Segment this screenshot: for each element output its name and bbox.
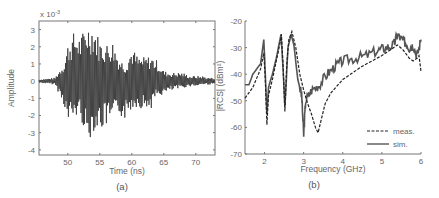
plot-a: 3210-1-2-3-4 5055606570 x 10-3 Time (ns)… [6, 9, 215, 192]
y-tick-label: 2 [31, 43, 36, 52]
x-tick-label: 5 [380, 157, 385, 166]
y-tick-label: -40 [230, 70, 242, 79]
y-tick-label: -50 [230, 97, 242, 106]
x-tick-label: 70 [191, 158, 200, 167]
x-tick-label: 65 [159, 158, 168, 167]
plot-a-signal-line [39, 33, 215, 137]
legend-meas-label: meas. [393, 127, 415, 136]
plot-a-caption: (a) [116, 181, 128, 192]
x-tick-label: 55 [95, 158, 104, 167]
plot-b-caption: (b) [308, 179, 320, 190]
plot-b-meas-line [245, 32, 421, 133]
legend-sim-label: sim. [393, 140, 408, 149]
y-tick-label: -20 [230, 17, 242, 26]
figure: 3210-1-2-3-4 5055606570 x 10-3 Time (ns)… [0, 0, 439, 198]
y-tick-label: -2 [28, 111, 36, 120]
x-tick-label: 6 [419, 157, 424, 166]
plot-a-x-label: Time (ns) [109, 166, 145, 176]
y-tick-label: -70 [230, 150, 242, 159]
plot-b-y-label: |RCS| (dBm²) [215, 60, 225, 111]
y-tick-label: -30 [230, 44, 242, 53]
plot-b-sim-line [245, 34, 421, 137]
y-tick-label: -4 [28, 146, 36, 155]
y-tick-label: 1 [31, 60, 36, 69]
plot-a-y-label: Amplitude [6, 69, 16, 107]
y-tick-label: -3 [28, 129, 36, 138]
x-tick-label: 50 [63, 158, 72, 167]
plot-a-multiplier: x 10-3 [40, 9, 60, 19]
plot-b: -20-30-40-50-60-70 23456 meas. sim. Freq… [215, 17, 424, 190]
y-tick-label: 3 [31, 26, 36, 35]
y-tick-label: -1 [28, 94, 36, 103]
x-tick-label: 2 [262, 157, 267, 166]
y-tick-label: -60 [230, 123, 242, 132]
plot-b-x-label: Frequency (GHz) [300, 164, 365, 174]
y-tick-label: 0 [31, 77, 36, 86]
plot-b-legend: meas. sim. [367, 127, 415, 149]
